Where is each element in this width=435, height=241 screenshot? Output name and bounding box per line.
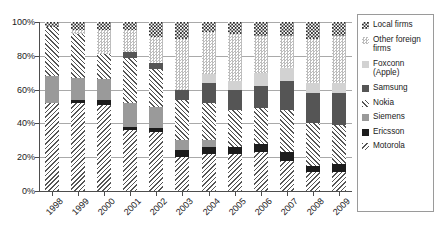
segment-nokia-1999[interactable]: [71, 34, 85, 78]
segment-local-2002[interactable]: [149, 22, 163, 37]
segment-samsung-2002[interactable]: [149, 63, 163, 70]
y-axis-line: [39, 22, 40, 192]
segment-local-2001[interactable]: [123, 22, 137, 30]
segment-samsung-2007[interactable]: [280, 81, 294, 110]
segment-samsung-2008[interactable]: [306, 93, 320, 123]
segment-siemens-1999[interactable]: [71, 78, 85, 100]
plot-area: [39, 22, 352, 192]
segment-local-2008[interactable]: [306, 22, 320, 39]
legend-item-ericsson[interactable]: Ericsson: [361, 127, 430, 137]
bar-2002[interactable]: [149, 22, 163, 191]
bar-2007[interactable]: [280, 22, 294, 191]
segment-otherforeign-2000[interactable]: [97, 30, 111, 54]
segment-samsung-2004[interactable]: [202, 83, 216, 103]
segment-ericsson-2001[interactable]: [123, 127, 137, 130]
segment-local-2007[interactable]: [280, 22, 294, 36]
segment-nokia-1998[interactable]: [45, 27, 59, 76]
segment-local-2005[interactable]: [228, 22, 242, 34]
segment-foxconn-2007[interactable]: [280, 68, 294, 82]
y-tick-label: 100%: [12, 17, 35, 27]
segment-siemens-2002[interactable]: [149, 107, 163, 129]
segment-otherforeign-2001[interactable]: [123, 30, 137, 52]
segment-ericsson-2009[interactable]: [332, 164, 346, 172]
segment-foxconn-2008[interactable]: [306, 83, 320, 93]
segment-motorola-2000[interactable]: [97, 105, 111, 191]
segment-ericsson-2002[interactable]: [149, 128, 163, 131]
segment-nokia-2003[interactable]: [175, 100, 189, 141]
segment-nokia-2008[interactable]: [306, 123, 320, 165]
segment-foxconn-2005[interactable]: [228, 81, 242, 89]
legend-swatch-icon: [362, 61, 369, 68]
segment-otherforeign-2005[interactable]: [228, 34, 242, 81]
segment-otherforeign-1999[interactable]: [71, 30, 85, 33]
segment-nokia-2001[interactable]: [123, 58, 137, 104]
legend-item-nokia[interactable]: Nokia: [361, 98, 430, 108]
segment-nokia-2006[interactable]: [254, 108, 268, 143]
segment-otherforeign-2004[interactable]: [202, 32, 216, 74]
segment-local-2004[interactable]: [202, 22, 216, 32]
bar-2005[interactable]: [228, 22, 242, 191]
segment-motorola-1998[interactable]: [45, 103, 59, 191]
segment-local-1999[interactable]: [71, 22, 85, 30]
bar-2004[interactable]: [202, 22, 216, 191]
bar-2003[interactable]: [175, 22, 189, 191]
segment-ericsson-2005[interactable]: [228, 147, 242, 154]
segment-siemens-2003[interactable]: [175, 140, 189, 150]
segment-otherforeign-2008[interactable]: [306, 39, 320, 83]
bar-2001[interactable]: [123, 22, 137, 191]
segment-motorola-2001[interactable]: [123, 130, 137, 191]
segment-ericsson-2003[interactable]: [175, 150, 189, 157]
segment-foxconn-2009[interactable]: [332, 83, 346, 93]
y-tick-label: 0%: [22, 186, 35, 196]
legend-swatch-icon: [362, 114, 369, 121]
bar-1998[interactable]: [45, 22, 59, 191]
legend-item-foxconn[interactable]: Foxconn (Apple): [361, 59, 430, 78]
segment-samsung-2009[interactable]: [332, 93, 346, 125]
segment-local-2009[interactable]: [332, 22, 346, 36]
bar-2006[interactable]: [254, 22, 268, 191]
bar-1999[interactable]: [71, 22, 85, 191]
segment-otherforeign-2006[interactable]: [254, 36, 268, 73]
segment-samsung-2005[interactable]: [228, 90, 242, 110]
segment-nokia-2000[interactable]: [97, 54, 111, 79]
segment-motorola-2002[interactable]: [149, 132, 163, 191]
segment-ericsson-2006[interactable]: [254, 144, 268, 152]
legend-item-otherforeign[interactable]: Other foreign firms: [361, 35, 430, 54]
bar-2008[interactable]: [306, 22, 320, 191]
segment-foxconn-2006[interactable]: [254, 73, 268, 87]
segment-nokia-2007[interactable]: [280, 110, 294, 152]
y-tick-label: 20%: [17, 152, 35, 162]
segment-local-2003[interactable]: [175, 22, 189, 39]
segment-local-2000[interactable]: [97, 22, 111, 30]
legend-item-siemens[interactable]: Siemens: [361, 112, 430, 122]
segment-ericsson-1999[interactable]: [71, 100, 85, 103]
segment-samsung-2006[interactable]: [254, 86, 268, 108]
segment-siemens-2000[interactable]: [97, 79, 111, 99]
bar-2009[interactable]: [332, 22, 346, 191]
legend-item-local[interactable]: Local firms: [361, 20, 430, 30]
bar-2000[interactable]: [97, 22, 111, 191]
legend-item-motorola[interactable]: Motorola: [361, 141, 430, 151]
segment-siemens-2004[interactable]: [202, 140, 216, 147]
segment-nokia-2005[interactable]: [228, 110, 242, 147]
segment-otherforeign-2007[interactable]: [280, 36, 294, 68]
segment-ericsson-2007[interactable]: [280, 152, 294, 160]
segment-otherforeign-2009[interactable]: [332, 36, 346, 83]
segment-ericsson-2008[interactable]: [306, 166, 320, 173]
segment-samsung-2001[interactable]: [123, 52, 137, 57]
segment-foxconn-2004[interactable]: [202, 74, 216, 82]
segment-ericsson-2004[interactable]: [202, 147, 216, 154]
segment-motorola-1999[interactable]: [71, 103, 85, 191]
legend-item-samsung[interactable]: Samsung: [361, 83, 430, 93]
segment-otherforeign-2003[interactable]: [175, 39, 189, 90]
segment-samsung-2003[interactable]: [175, 90, 189, 100]
segment-nokia-2002[interactable]: [149, 69, 163, 106]
segment-local-1998[interactable]: [45, 22, 59, 27]
segment-siemens-1998[interactable]: [45, 76, 59, 103]
segment-local-2006[interactable]: [254, 22, 268, 36]
segment-nokia-2004[interactable]: [202, 103, 216, 140]
segment-ericsson-2000[interactable]: [97, 100, 111, 105]
segment-nokia-2009[interactable]: [332, 125, 346, 164]
segment-siemens-2001[interactable]: [123, 103, 137, 127]
segment-otherforeign-2002[interactable]: [149, 37, 163, 62]
